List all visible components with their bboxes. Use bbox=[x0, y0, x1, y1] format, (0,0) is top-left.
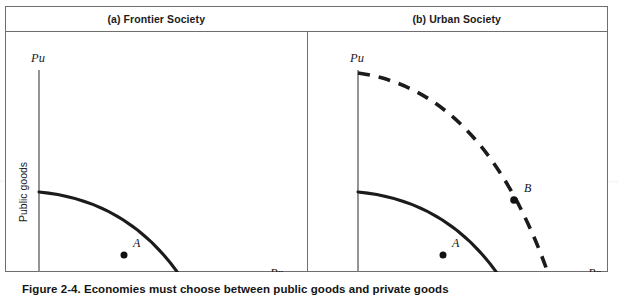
x-axis-tip-label: Pr bbox=[269, 266, 283, 272]
chart-panel-frontier-society: Pu Pr Public goods Private goods A bbox=[6, 32, 307, 272]
point-marker-a bbox=[121, 252, 128, 259]
ppf-curve-solid bbox=[358, 192, 497, 272]
figure-frame: (a) Frontier Society (b) Urban Society P… bbox=[5, 6, 608, 272]
point-marker-a bbox=[440, 252, 447, 259]
point-marker-b bbox=[510, 196, 518, 204]
figure-2-4: (a) Frontier Society (b) Urban Society P… bbox=[0, 0, 618, 305]
y-axis-tip-label: Pu bbox=[349, 51, 364, 65]
panel-title-bar: (a) Frontier Society (b) Urban Society bbox=[6, 7, 607, 32]
point-label-b: B bbox=[524, 181, 532, 195]
y-axis-tip-label: Pu bbox=[30, 51, 45, 65]
plot-frontier-society: Pu Pr Public goods Private goods A bbox=[6, 32, 307, 272]
panel-title-urban-society: (b) Urban Society bbox=[307, 7, 608, 31]
ppf-curve-solid bbox=[39, 192, 178, 272]
point-label-a: A bbox=[132, 236, 141, 250]
figure-caption: Figure 2-4. Economies must choose betwee… bbox=[22, 283, 449, 295]
y-axis-title: Public goods bbox=[17, 162, 29, 222]
panel-title-frontier-society: (a) Frontier Society bbox=[6, 7, 307, 31]
plot-urban-society: Pu Pr Private goods A B bbox=[308, 32, 608, 272]
point-label-a: A bbox=[451, 236, 460, 250]
x-axis-tip-label: Pr bbox=[587, 266, 601, 272]
chart-panel-urban-society: Pu Pr Private goods A B bbox=[308, 32, 608, 272]
